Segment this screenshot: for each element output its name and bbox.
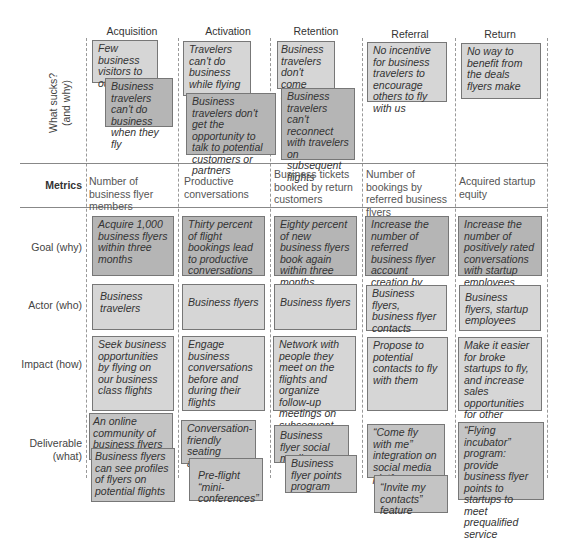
column-header-activation: Activation <box>182 25 274 37</box>
column-header-return: Return <box>454 28 546 40</box>
row-label-impact: Impact (how) <box>2 358 82 371</box>
column-divider <box>547 38 548 478</box>
column-divider <box>362 38 363 478</box>
what-sucks-card: Business travelers can't reconnect with … <box>281 88 355 160</box>
actor-card: Business flyers <box>182 284 265 330</box>
metric-acquisition: Number of business flyer members <box>89 175 177 213</box>
metric-return: Acquired startup equity <box>459 175 539 200</box>
row-label-metrics: Metrics <box>2 179 82 192</box>
metric-referral: Number of bookings by referred business … <box>366 168 454 218</box>
deliverable-card: Business flyers can see profiles of flye… <box>91 448 175 502</box>
actor-card: Business flyers, startup employees <box>459 285 541 331</box>
goal-card: Thirty percent of flight bookings lead t… <box>182 216 265 276</box>
goal-card: Eighty percent of new business flyers bo… <box>274 216 357 276</box>
row-label-line: What sucks? <box>47 73 60 133</box>
deliverable-card: “Invite my contacts” feature <box>374 475 448 513</box>
impact-card: Network with people they meet on the fli… <box>273 336 356 411</box>
what-sucks-card: No way to benefit from the deals flyers … <box>461 43 541 99</box>
row-label-deliverable: Deliverable (what) <box>2 437 82 463</box>
goal-card: Increase the number of positively rated … <box>458 216 542 276</box>
what-sucks-card: Travelers can't do business while flying <box>183 41 251 96</box>
what-sucks-card: No incentive for business travelers to e… <box>367 42 447 102</box>
what-sucks-card: Business travelers can't do business whe… <box>105 78 173 127</box>
column-header-referral: Referral <box>364 28 456 40</box>
row-label-what-sucks: What sucks? (and why) <box>47 73 73 133</box>
column-divider <box>455 38 456 478</box>
actor-card: Business travelers <box>92 284 174 330</box>
row-label-goal: Goal (why) <box>2 241 82 254</box>
impact-card: Make it easier for broke startups to fly… <box>458 337 542 411</box>
deliverable-card: Business flyer points program <box>285 455 357 493</box>
impact-card: Engage business conversations before and… <box>182 336 265 411</box>
impact-card: Seek business opportunities by flying on… <box>92 336 174 411</box>
metrics-top-divider <box>20 163 548 164</box>
actor-card: Business flyers <box>274 284 357 330</box>
row-label-line: (and why) <box>60 73 73 133</box>
deliverable-card: “Come fly with me” integration on social… <box>367 424 445 478</box>
what-sucks-card: Business travelers don't get the opportu… <box>186 93 276 155</box>
column-header-acquisition: Acquisition <box>86 25 178 37</box>
actor-card: Business flyers, business flyer contacts <box>366 285 447 331</box>
goal-card: Acquire 1,000 business flyers within thr… <box>92 216 174 276</box>
impact-card: Propose to potential contacts to fly wit… <box>367 337 448 411</box>
what-sucks-card: Few business visitors to our site <box>92 40 158 83</box>
column-divider <box>86 38 87 478</box>
column-divider <box>178 38 179 478</box>
deliverable-card: Pre-flight “mini-conferences” <box>189 458 263 501</box>
column-header-retention: Retention <box>270 25 362 37</box>
row-label-actor: Actor (who) <box>2 299 82 312</box>
goal-card: Increase the number of referred business… <box>365 216 449 276</box>
metric-retention: Business tickets booked by return custom… <box>274 168 362 206</box>
what-sucks-card: Business travelers don't come back <box>277 41 335 89</box>
row-label-line: Deliverable <box>2 437 82 450</box>
metric-activation: Productive conversations <box>184 175 264 200</box>
deliverable-card: “Flying incubator” program: provide busi… <box>458 422 544 500</box>
row-label-line: (what) <box>2 450 82 463</box>
